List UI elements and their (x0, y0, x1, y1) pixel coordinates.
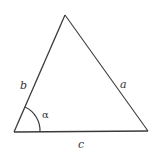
label-b: b (20, 79, 27, 92)
label-a: a (120, 78, 127, 91)
angle-arc-alpha (25, 107, 40, 132)
label-alpha: α (42, 109, 49, 120)
triangle-diagram: b a c α (0, 0, 161, 153)
side-a (65, 15, 148, 131)
side-c (14, 131, 148, 132)
label-c: c (78, 138, 84, 151)
side-b (14, 15, 65, 132)
